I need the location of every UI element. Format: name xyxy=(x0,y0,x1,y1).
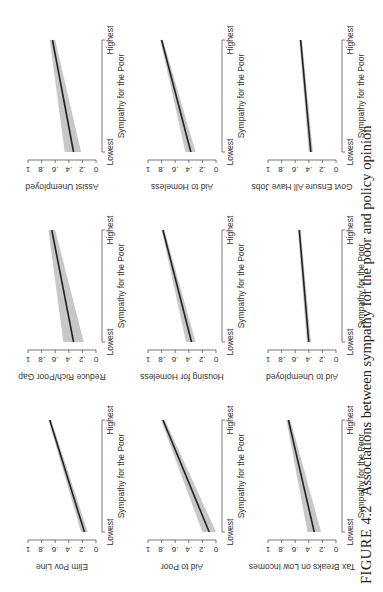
figure-caption-text: Associations between sympathy for the po… xyxy=(358,126,374,497)
y-tick-label: 0 xyxy=(333,545,338,554)
y-tick-label: .2 xyxy=(79,355,86,364)
chart-panel: 0.2.4.6.81LowestHighestSympathy for the … xyxy=(4,20,124,210)
y-tick-label: 1 xyxy=(265,165,270,174)
x-tick-label: Highest xyxy=(105,405,115,434)
y-axis-label: Housing for Homeless xyxy=(140,372,224,382)
x-tick-label: Highest xyxy=(345,25,355,54)
y-tick-label: .4 xyxy=(305,545,312,554)
y-tick-label: .2 xyxy=(319,165,326,174)
x-tick-label: Highest xyxy=(105,215,115,244)
x-tick-label: Highest xyxy=(225,215,235,244)
fitted-line xyxy=(50,420,85,532)
fitted-line xyxy=(301,40,311,152)
y-tick-label: .6 xyxy=(51,165,58,174)
y-tick-label: .6 xyxy=(171,165,178,174)
fitted-line xyxy=(163,420,209,532)
fitted-line xyxy=(162,40,191,152)
y-tick-label: .4 xyxy=(185,545,192,554)
panel-plot: 0.2.4.6.81LowestHighestSympathy for the … xyxy=(244,400,364,590)
y-axis-label: Reduce Rich/Poor Gap xyxy=(18,372,106,382)
chart-panel: 0.2.4.6.81LowestHighestSympathy for the … xyxy=(244,400,364,590)
y-tick-label: .8 xyxy=(158,545,165,554)
y-tick-label: 1 xyxy=(145,355,150,364)
confidence-band xyxy=(50,40,81,152)
y-tick-label: .4 xyxy=(65,165,72,174)
y-tick-label: .8 xyxy=(38,545,45,554)
y-axis-label: Aid to Homeless xyxy=(151,182,213,192)
y-tick-label: 1 xyxy=(25,165,30,174)
x-tick-label: Lowest xyxy=(105,138,115,166)
fitted-line xyxy=(163,230,192,342)
y-tick-label: .2 xyxy=(199,165,206,174)
y-tick-label: .2 xyxy=(79,545,86,554)
y-tick-label: .6 xyxy=(51,545,58,554)
y-tick-label: 0 xyxy=(333,355,338,364)
y-tick-label: 0 xyxy=(213,165,218,174)
y-tick-label: .8 xyxy=(158,355,165,364)
x-tick-label: Lowest xyxy=(225,138,235,166)
x-tick-label: Highest xyxy=(345,405,355,434)
x-tick-label: Highest xyxy=(225,405,235,434)
y-tick-label: .2 xyxy=(79,165,86,174)
y-tick-label: .2 xyxy=(199,355,206,364)
chart-panel: 0.2.4.6.81LowestHighestSympathy for the … xyxy=(124,20,244,210)
y-axis-label: Tax Breaks on Low Incomes xyxy=(249,562,355,572)
y-tick-label: 0 xyxy=(93,165,98,174)
figure-caption: FIGURE 4.2 Associations between sympathy… xyxy=(358,4,375,584)
y-axis-label: Aid to Unemployed xyxy=(266,372,338,382)
fitted-line xyxy=(288,420,314,532)
y-tick-label: 0 xyxy=(213,355,218,364)
y-tick-label: 0 xyxy=(93,545,98,554)
y-tick-label: 1 xyxy=(25,545,30,554)
figure-number: FIGURE 4.2 xyxy=(358,505,374,584)
y-tick-label: 0 xyxy=(213,545,218,554)
x-tick-label: Lowest xyxy=(345,518,355,546)
panel-plot: 0.2.4.6.81LowestHighestSympathy for the … xyxy=(4,400,124,590)
x-tick-label: Highest xyxy=(345,215,355,244)
y-tick-label: .4 xyxy=(305,355,312,364)
y-tick-label: .2 xyxy=(199,545,206,554)
x-tick-label: Lowest xyxy=(345,138,355,166)
chart-panel: 0.2.4.6.81LowestHighestSympathy for the … xyxy=(4,400,124,590)
panel-plot: 0.2.4.6.81LowestHighestSympathy for the … xyxy=(124,20,244,210)
y-tick-label: .4 xyxy=(65,355,72,364)
y-tick-label: .2 xyxy=(319,545,326,554)
y-tick-label: 1 xyxy=(265,545,270,554)
y-axis-label: Assist Unemployed xyxy=(25,182,98,192)
y-tick-label: .4 xyxy=(305,165,312,174)
x-tick-label: Lowest xyxy=(105,518,115,546)
confidence-band xyxy=(48,230,83,342)
x-tick-label: Lowest xyxy=(225,518,235,546)
y-axis-label: Aid to Poor xyxy=(161,562,203,572)
y-tick-label: .6 xyxy=(291,165,298,174)
y-tick-label: 1 xyxy=(25,355,30,364)
x-tick-label: Highest xyxy=(225,25,235,54)
y-tick-label: .8 xyxy=(38,355,45,364)
y-tick-label: 0 xyxy=(93,355,98,364)
panel-plot: 0.2.4.6.81LowestHighestSympathy for the … xyxy=(244,20,364,210)
panel-plot: 0.2.4.6.81LowestHighestSympathy for the … xyxy=(124,210,244,400)
y-tick-label: .4 xyxy=(65,545,72,554)
panel-plot: 0.2.4.6.81LowestHighestSympathy for the … xyxy=(124,400,244,590)
chart-panel: 0.2.4.6.81LowestHighestSympathy for the … xyxy=(244,20,364,210)
x-tick-label: Highest xyxy=(105,25,115,54)
y-axis-label: Elim Pov Line xyxy=(36,562,88,572)
figure-page: 0.2.4.6.81LowestHighestSympathy for the … xyxy=(0,0,383,592)
panel-plot: 0.2.4.6.81LowestHighestSympathy for the … xyxy=(4,20,124,210)
y-tick-label: .8 xyxy=(278,545,285,554)
y-tick-label: .6 xyxy=(291,545,298,554)
y-tick-label: .6 xyxy=(291,355,298,364)
panel-plot: 0.2.4.6.81LowestHighestSympathy for the … xyxy=(244,210,364,400)
chart-panel: 0.2.4.6.81LowestHighestSympathy for the … xyxy=(124,210,244,400)
panel-plot: 0.2.4.6.81LowestHighestSympathy for the … xyxy=(4,210,124,400)
y-axis-label: Govt Ensure All Have Jobs xyxy=(251,182,352,192)
y-tick-label: .4 xyxy=(185,355,192,364)
chart-panel: 0.2.4.6.81LowestHighestSympathy for the … xyxy=(244,210,364,400)
y-tick-label: .2 xyxy=(319,355,326,364)
y-tick-label: .8 xyxy=(278,355,285,364)
y-tick-label: 0 xyxy=(333,165,338,174)
fitted-line xyxy=(299,230,309,342)
chart-panel: 0.2.4.6.81LowestHighestSympathy for the … xyxy=(4,210,124,400)
x-tick-label: Lowest xyxy=(345,328,355,356)
y-tick-label: 1 xyxy=(265,355,270,364)
